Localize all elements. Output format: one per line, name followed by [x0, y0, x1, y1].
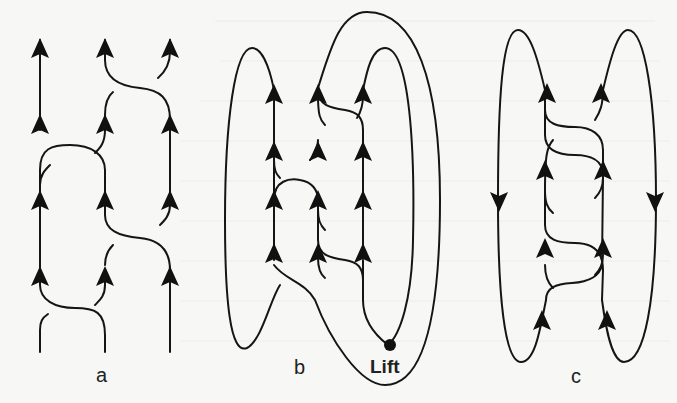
panel-a-strand: [40, 190, 105, 352]
panel-a-strand: [105, 40, 170, 190]
panel-b: Lift b: [225, 12, 440, 385]
panel-b-label: b: [294, 356, 305, 378]
panel-a-strand: [40, 314, 48, 352]
arrow-up-icon: [536, 238, 554, 258]
panel-c-strand: [545, 90, 603, 300]
panel-c: c: [490, 30, 664, 387]
braid-figure: a: [0, 0, 677, 403]
panel-a: a: [31, 38, 179, 386]
panel-c-strand: [545, 90, 603, 175]
panel-a-strand: [105, 245, 113, 265]
panel-a-arrows: [31, 38, 179, 286]
lift-point-dot: [384, 339, 396, 351]
panel-c-label: c: [571, 365, 581, 387]
panel-a-label: a: [96, 364, 108, 386]
arrow-up-icon: [309, 141, 327, 161]
panel-a-strand: [40, 165, 50, 185]
panel-c-strand: [545, 265, 553, 288]
panel-c-arrows: [490, 83, 664, 330]
lift-label: Lift: [370, 356, 400, 377]
panel-b-strand: [274, 12, 440, 385]
panel-c-strand: [545, 190, 553, 213]
arrow-up-icon: [533, 310, 551, 330]
panel-a-strand: [105, 190, 170, 352]
